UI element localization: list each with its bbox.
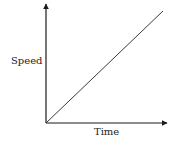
y-axis-label: Speed <box>11 55 43 66</box>
speed-line <box>46 11 163 123</box>
x-axis-label: Time <box>94 126 119 137</box>
speed-time-diagram: Speed Time <box>0 0 174 142</box>
